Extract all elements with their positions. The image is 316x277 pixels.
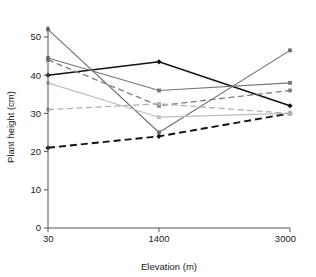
x-tick-label: 3000 (275, 233, 296, 244)
data-point-marker (288, 112, 292, 116)
data-point-marker (287, 103, 292, 108)
series-layer (45, 27, 292, 150)
data-point-marker (156, 59, 161, 64)
data-point-marker (157, 115, 161, 119)
y-tick-label: 10 (30, 184, 41, 195)
y-tick-label: 40 (30, 70, 41, 81)
series-line-5 (48, 60, 290, 106)
data-point-marker (157, 102, 161, 106)
label-layer: 010203040503014003000Elevation (m)Plant … (5, 31, 296, 272)
data-point-marker (288, 89, 292, 93)
x-tick-label: 30 (43, 233, 54, 244)
plant-height-elevation-chart: 010203040503014003000Elevation (m)Plant … (0, 0, 316, 277)
data-point-marker (157, 89, 161, 93)
x-tick-label: 1400 (148, 233, 169, 244)
data-point-marker (288, 81, 292, 85)
y-axis-title: Plant height (cm) (5, 91, 16, 163)
series-line-7 (48, 104, 290, 114)
axis-layer (44, 26, 290, 232)
series-line-6 (48, 83, 290, 117)
y-tick-label: 0 (36, 222, 41, 233)
chart-canvas: 010203040503014003000Elevation (m)Plant … (0, 0, 316, 277)
series-line-2 (48, 113, 290, 147)
data-point-marker (157, 131, 161, 135)
y-tick-label: 30 (30, 108, 41, 119)
y-tick-label: 20 (30, 146, 41, 157)
data-point-marker (156, 134, 161, 139)
data-point-marker (288, 48, 292, 52)
x-axis-title: Elevation (m) (141, 261, 197, 272)
y-tick-label: 50 (30, 31, 41, 42)
